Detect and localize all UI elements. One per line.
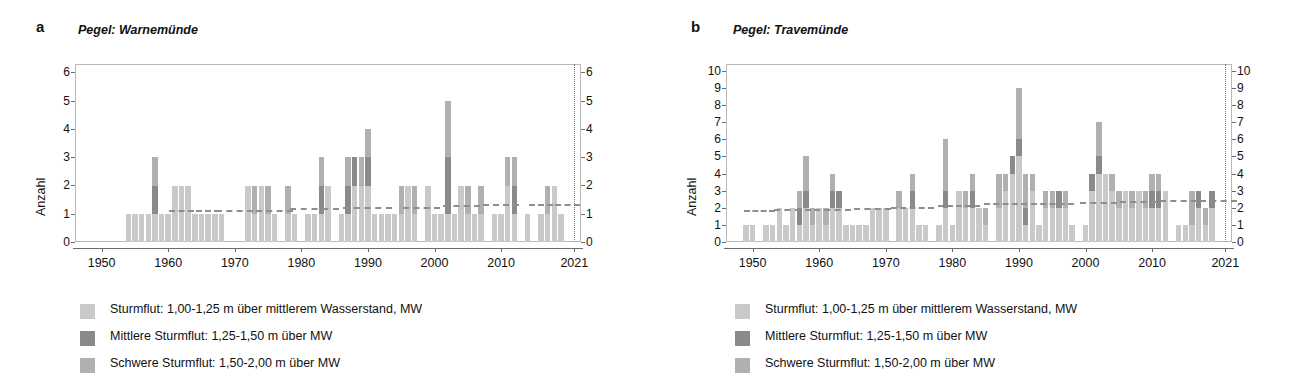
bar-segment (1109, 174, 1114, 191)
bar-segment (843, 225, 848, 242)
y-tick-label: 1 (63, 207, 70, 221)
bar-segment (896, 191, 901, 208)
bar (1043, 191, 1048, 242)
y-tick-mark (1232, 71, 1236, 72)
bar-segment (1016, 156, 1021, 242)
bar (272, 214, 277, 242)
bar-segment (1189, 225, 1194, 242)
y-tick-label: 3 (63, 150, 70, 164)
bar (212, 214, 217, 242)
y-tick-label: 3 (1237, 184, 1244, 198)
y-tick-mark (722, 139, 726, 140)
bar-segment (916, 225, 921, 242)
bar-segment (1056, 191, 1061, 208)
bar-segment (345, 186, 350, 214)
bar-segment (345, 157, 350, 185)
bar (545, 186, 550, 243)
bar-segment (996, 208, 1001, 242)
bar-segment (319, 157, 324, 185)
legend-swatch-sturmflut (735, 304, 750, 319)
bar-segment (816, 208, 821, 242)
y-tick-label: 6 (63, 65, 70, 79)
x-axis-line (73, 248, 583, 249)
bar (285, 186, 290, 243)
bar (863, 225, 868, 242)
x-tick-mark (952, 248, 953, 252)
bar-segment (936, 225, 941, 242)
bar-segment (445, 101, 450, 158)
x-tick-mark (1086, 248, 1087, 252)
bar-segment (1096, 156, 1101, 173)
x-tick-mark (301, 248, 302, 252)
bar-segment (1149, 208, 1154, 242)
bar (976, 208, 981, 242)
bar-segment (750, 225, 755, 242)
panel-letter-b: b (691, 18, 700, 35)
bar (558, 214, 563, 242)
x-tick-mark (102, 248, 103, 252)
y-tick-mark (581, 157, 585, 158)
bar-segment (498, 214, 503, 242)
bar (425, 186, 430, 243)
bar (777, 208, 782, 242)
bar-segment (472, 214, 477, 242)
y-tick-mark (1232, 225, 1236, 226)
y-tick-label: 10 (1237, 64, 1250, 78)
bar-segment (1003, 174, 1008, 191)
bar (790, 208, 795, 242)
bar-segment (1136, 191, 1141, 242)
trend-dashed-line (256, 210, 293, 212)
bar-segment (212, 214, 217, 242)
bar-segment (1143, 191, 1148, 208)
y-tick-mark (581, 72, 585, 73)
x-tick-label: 2000 (421, 256, 449, 270)
bar (850, 225, 855, 242)
y-tick-mark (1232, 139, 1236, 140)
x-tick-mark (435, 248, 436, 252)
bar-segment (797, 225, 802, 242)
trend-dashed-line (216, 210, 253, 212)
bar (996, 174, 1001, 242)
y-tick-label: 5 (586, 94, 593, 108)
x-tick-mark (501, 248, 502, 252)
y-tick-mark (1232, 191, 1236, 192)
y-tick-mark (1232, 88, 1236, 89)
y-tick-mark (581, 185, 585, 186)
bar (1203, 208, 1208, 242)
bar-segment (1209, 208, 1214, 242)
bar-segment (810, 225, 815, 242)
y-tick-mark (71, 72, 75, 73)
bar-segment (876, 208, 881, 242)
panel-title-a: Pegel: Warnemünde (78, 23, 198, 37)
y-tick-label: 4 (1237, 167, 1244, 181)
legend-label-mittlere-sturmflut: Mittlere Sturmflut: 1,25-1,50 m über MW (765, 329, 987, 343)
bar-segment (412, 186, 417, 214)
bar-segment (452, 214, 457, 242)
bar-segment (312, 214, 317, 242)
bar-segment (836, 208, 841, 242)
bar-segment (1156, 208, 1161, 242)
y-tick-label: 4 (586, 122, 593, 136)
bar (896, 191, 901, 242)
bar-segment (1063, 191, 1068, 208)
y-tick-label: 1 (1237, 218, 1244, 232)
bar (245, 186, 250, 243)
bar (797, 191, 802, 242)
trend-dashed-line (984, 203, 1027, 205)
vertical-dotted-line-2021 (574, 64, 575, 242)
y-tick-label: 8 (714, 98, 721, 112)
bar (432, 214, 437, 242)
bar-segment (445, 214, 450, 242)
y-tick-label: 9 (714, 81, 721, 95)
y-tick-mark (1232, 156, 1236, 157)
x-tick-label: 2000 (1072, 256, 1100, 270)
bar-segment (1196, 208, 1201, 242)
y-tick-label: 0 (63, 235, 70, 249)
trend-dashed-line (814, 209, 851, 211)
trend-dashed-line (854, 208, 891, 210)
bar (810, 208, 815, 242)
bar (1003, 174, 1008, 242)
bar-segment (385, 214, 390, 242)
bar-segment (339, 214, 344, 242)
bar-segment (983, 225, 988, 242)
